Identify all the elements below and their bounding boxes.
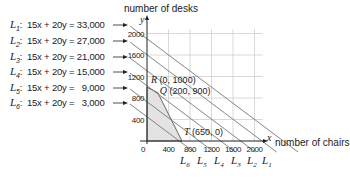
bottom-label-L2: L2 [246,154,257,169]
y-axis-title: number of desks [124,3,198,14]
legend-equation-3: L3: 15x + 20y = 21,000 [10,50,105,64]
bottom-label-L5: L5 [196,154,207,169]
x-axis-symbol: x [266,132,272,143]
y-axis-symbol: y [139,14,145,25]
svg-text:800: 800 [132,94,145,103]
legend-equation-1: L1: 15x + 20y = 33,000 [10,18,105,32]
svg-text:1600: 1600 [128,51,145,60]
legend-equation-5: L5: 15x + 20y = 9,000 [10,81,104,95]
legend-equation-6: L6: 15x + 20y = 3,000 [10,96,104,110]
bottom-label-L4: L4 [213,154,224,169]
legend-arrows [113,23,128,105]
arrow-icon [123,23,128,27]
legend-equation-4: L4: 15x + 20y = 15,000 [10,65,105,79]
svg-text:1200: 1200 [128,73,145,82]
legend-equation-2: L2: 15x + 20y = 27,000 [10,34,105,48]
svg-text:2000: 2000 [246,145,263,154]
svg-text:2000: 2000 [128,30,145,39]
svg-text:1600: 1600 [225,145,242,154]
arrow-icon [123,39,128,43]
arrow-icon [123,101,128,105]
annotation-Q: Q (200, 900) [160,85,211,96]
svg-text:0: 0 [141,145,146,154]
bottom-label-L6: L6 [179,154,190,169]
annotation-T: T (650, 0) [184,126,223,137]
line-labels-bottom: L6L5L4L3L2L1 [179,154,272,169]
svg-text:400: 400 [162,145,175,154]
bottom-label-L1: L1 [261,154,272,169]
svg-text:800: 800 [184,145,197,154]
x-axis-title: number of chairs [275,137,349,148]
bottom-label-L3: L3 [230,154,241,169]
arrow-icon [123,86,128,90]
svg-text:400: 400 [132,116,145,125]
svg-text:1200: 1200 [203,145,220,154]
annotation-R: R (0, 1000) [150,74,196,85]
